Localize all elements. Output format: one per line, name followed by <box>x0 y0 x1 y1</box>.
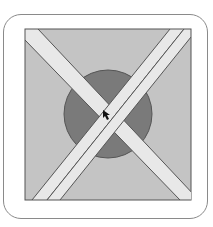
crossed-circle-graphic <box>0 0 213 227</box>
